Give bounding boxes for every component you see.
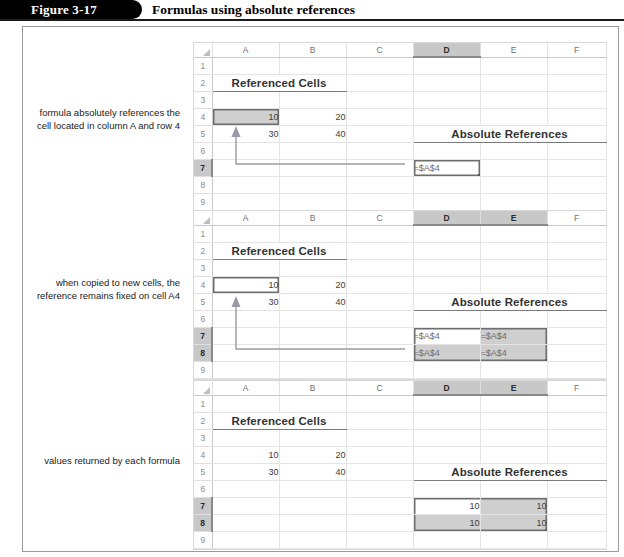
cell-D1-p2[interactable] <box>413 225 480 242</box>
cell-F6-p2[interactable] <box>547 310 606 327</box>
cell-B6-p2[interactable] <box>279 310 346 327</box>
cell-C6-p3[interactable] <box>346 480 413 497</box>
cell-B9-p3[interactable] <box>279 531 346 548</box>
cell-C1-p1[interactable] <box>346 57 413 74</box>
cell-B7-p3[interactable] <box>279 497 346 514</box>
column-header-a-3[interactable]: A <box>212 381 279 395</box>
cell-C6-p1[interactable] <box>346 142 413 159</box>
row-header-2-1[interactable]: 2 <box>194 74 212 91</box>
cell-C7-p2[interactable] <box>346 327 413 344</box>
row-header-8-3[interactable]: 8 <box>194 514 212 531</box>
cell-B7-p1[interactable] <box>279 159 346 176</box>
row-header-3-2[interactable]: 3 <box>194 259 212 276</box>
cell-D1-p1[interactable] <box>413 57 480 74</box>
select-all-corner-3[interactable] <box>194 381 212 395</box>
cell-D2-p2[interactable] <box>413 242 480 259</box>
cell-A4-p2[interactable]: 10 <box>212 276 279 293</box>
cell-F9-p1[interactable] <box>547 193 606 210</box>
row-header-2-2[interactable]: 2 <box>194 242 212 259</box>
cell-C3-p2[interactable] <box>346 259 413 276</box>
cell-B3-p2[interactable] <box>279 259 346 276</box>
cell-F7-p3[interactable] <box>547 497 606 514</box>
cell-E8-p1[interactable] <box>480 176 547 193</box>
cell-E4-p1[interactable] <box>480 108 547 125</box>
column-header-e-1[interactable]: E <box>480 43 547 57</box>
cell-A9-p2[interactable] <box>212 361 279 378</box>
cell-D1-p3[interactable] <box>413 395 480 412</box>
cell-D2-p3[interactable] <box>413 412 480 429</box>
cell-D9-p3[interactable] <box>413 531 480 548</box>
cell-E1-p3[interactable] <box>480 395 547 412</box>
row-header-3-3[interactable]: 3 <box>194 429 212 446</box>
spreadsheet-panel-1[interactable]: A B C D E F 1 2 Referenced Cells 3 <box>193 42 607 212</box>
cell-D8-p3[interactable]: 10 <box>413 514 480 531</box>
cell-C2-p3[interactable] <box>346 412 413 429</box>
cell-F2-p2[interactable] <box>547 242 606 259</box>
cell-C3-p1[interactable] <box>346 91 413 108</box>
cell-E6-p2[interactable] <box>480 310 547 327</box>
cell-A6-p3[interactable] <box>212 480 279 497</box>
cell-A9-p1[interactable] <box>212 193 279 210</box>
cell-C8-p2[interactable] <box>346 344 413 361</box>
row-header-7-2[interactable]: 7 <box>194 327 212 344</box>
cell-E7-p2[interactable]: =$A$4 <box>480 327 547 344</box>
cell-C2-p1[interactable] <box>346 74 413 91</box>
cell-C3-p3[interactable] <box>346 429 413 446</box>
cell-B6-p3[interactable] <box>279 480 346 497</box>
cell-F9-p3[interactable] <box>547 531 606 548</box>
cell-D8-p2[interactable]: =$A$4 <box>413 344 480 361</box>
cell-D3-p2[interactable] <box>413 259 480 276</box>
row-header-1-2[interactable]: 1 <box>194 225 212 242</box>
cell-B8-p1[interactable] <box>279 176 346 193</box>
cell-F4-p2[interactable] <box>547 276 606 293</box>
column-header-c-3[interactable]: C <box>346 381 413 395</box>
cell-E8-p3[interactable]: 10 <box>480 514 547 531</box>
cell-B3-p1[interactable] <box>279 91 346 108</box>
row-header-3-1[interactable]: 3 <box>194 91 212 108</box>
cell-F1-p2[interactable] <box>547 225 606 242</box>
cell-A6-p2[interactable] <box>212 310 279 327</box>
column-header-a-1[interactable]: A <box>212 43 279 57</box>
cell-C9-p3[interactable] <box>346 531 413 548</box>
cell-F7-p2[interactable] <box>547 327 606 344</box>
cell-E3-p2[interactable] <box>480 259 547 276</box>
cell-C4-p1[interactable] <box>346 108 413 125</box>
column-header-b-2[interactable]: B <box>279 211 346 225</box>
cell-B8-p3[interactable] <box>279 514 346 531</box>
cell-F3-p3[interactable] <box>547 429 606 446</box>
cell-E9-p3[interactable] <box>480 531 547 548</box>
cell-E1-p1[interactable] <box>480 57 547 74</box>
cell-F8-p2[interactable] <box>547 344 606 361</box>
column-header-b-3[interactable]: B <box>279 381 346 395</box>
cell-F4-p1[interactable] <box>547 108 606 125</box>
column-header-c-2[interactable]: C <box>346 211 413 225</box>
cell-B6-p1[interactable] <box>279 142 346 159</box>
cell-D3-p1[interactable] <box>413 91 480 108</box>
cell-A5-p2[interactable]: 30 <box>212 293 279 310</box>
cell-A7-p2[interactable] <box>212 327 279 344</box>
cell-B5-p2[interactable]: 40 <box>279 293 346 310</box>
cell-D2-p1[interactable] <box>413 74 480 91</box>
cell-C7-p3[interactable] <box>346 497 413 514</box>
cell-C5-p1[interactable] <box>346 125 413 142</box>
cell-F6-p1[interactable] <box>547 142 606 159</box>
cell-B9-p2[interactable] <box>279 361 346 378</box>
cell-C5-p2[interactable] <box>346 293 413 310</box>
row-header-9-3[interactable]: 9 <box>194 531 212 548</box>
cell-E6-p1[interactable] <box>480 142 547 159</box>
cell-A9-p3[interactable] <box>212 531 279 548</box>
cell-A7-p3[interactable] <box>212 497 279 514</box>
cell-D7-p1[interactable]: =$A$4 <box>413 159 480 176</box>
cell-A3-p2[interactable] <box>212 259 279 276</box>
column-header-f-3[interactable]: F <box>547 381 606 395</box>
cell-D6-p3[interactable] <box>413 480 480 497</box>
cell-A3-p1[interactable] <box>212 91 279 108</box>
column-header-a-2[interactable]: A <box>212 211 279 225</box>
spreadsheet-panel-3[interactable]: A B C D E F 1 2 Referenced Cells 3 <box>193 380 607 550</box>
cell-A8-p3[interactable] <box>212 514 279 531</box>
cell-F7-p1[interactable] <box>547 159 606 176</box>
cell-E6-p3[interactable] <box>480 480 547 497</box>
cell-D6-p2[interactable] <box>413 310 480 327</box>
row-header-7-3[interactable]: 7 <box>194 497 212 514</box>
cell-F1-p1[interactable] <box>547 57 606 74</box>
